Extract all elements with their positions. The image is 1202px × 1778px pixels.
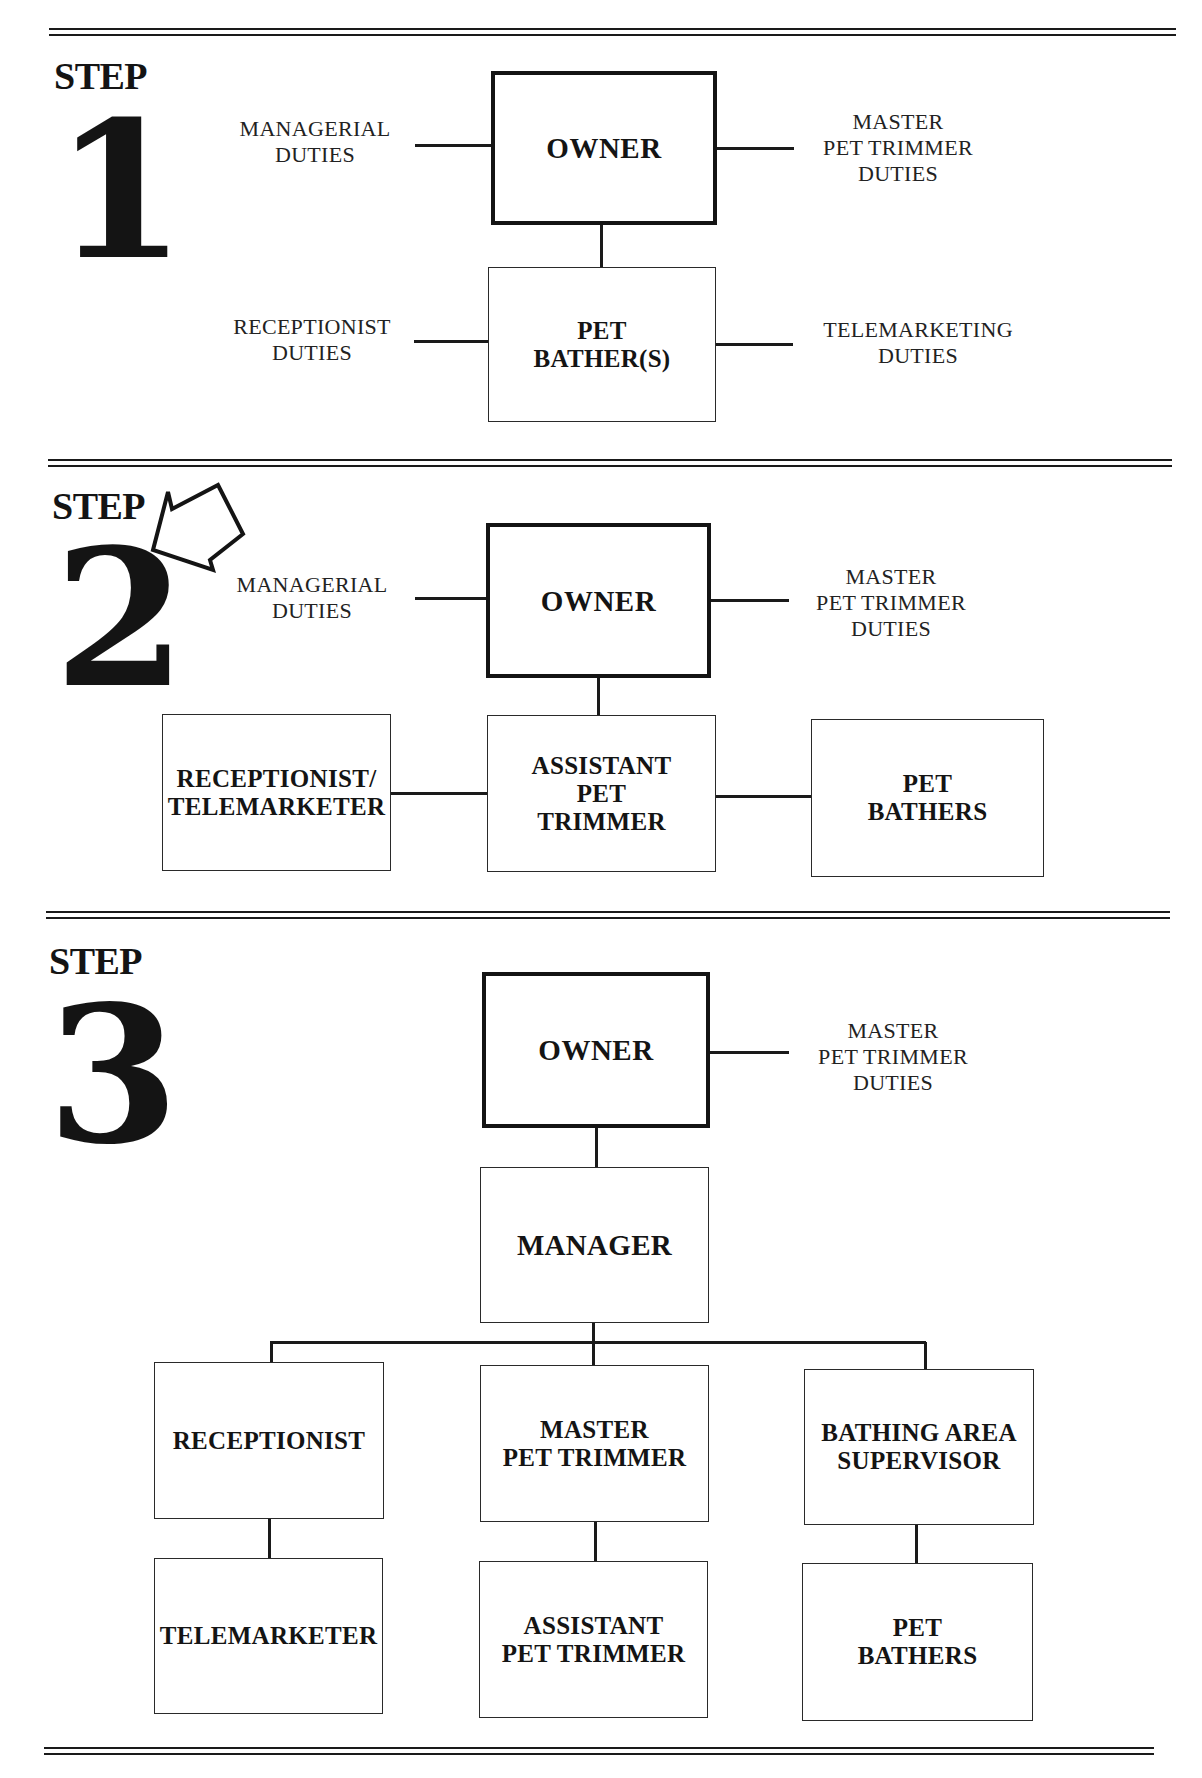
section-divider-3b	[46, 917, 1170, 919]
step-1-connector-managerial	[415, 144, 491, 147]
step-3-connector-owner-manager	[595, 1128, 598, 1168]
section-divider-top-a	[49, 28, 1176, 30]
step-1-number: 1	[54, 96, 186, 286]
step-2-pet-bathers-box: PET BATHERS	[811, 719, 1044, 877]
section-divider-top-b	[49, 34, 1176, 36]
step-2-connector-owner-assistant	[597, 678, 600, 715]
step-3-connector-supervisor-bathers	[915, 1525, 918, 1564]
step-1-connector-owner-bather	[600, 225, 603, 268]
step-3-assistant-trimmer-label: ASSISTANT PET TRIMMER	[502, 1612, 686, 1668]
section-divider-2a	[48, 459, 1172, 461]
step-1-pet-bather-label: PET BATHER(S)	[534, 317, 671, 373]
step-3-pet-bathers-label: PET BATHERS	[858, 1614, 978, 1670]
step-3-assistant-trimmer-box: ASSISTANT PET TRIMMER	[479, 1561, 708, 1718]
step-3-bathing-supervisor-label: BATHING AREA SUPERVISOR	[821, 1419, 1017, 1475]
step-2-number: 2	[54, 524, 186, 714]
step-3-receptionist-label: RECEPTIONIST	[173, 1427, 366, 1455]
step-1-owner-box: OWNER	[491, 71, 717, 225]
step-1-managerial-duties: MANAGERIAL DUTIES	[240, 116, 391, 168]
step-3-connector-receptionist-telemarketer	[268, 1519, 271, 1559]
step-2-receptionist-telemarketer-box: RECEPTIONIST/ TELEMARKETER	[162, 714, 391, 871]
step-1-telemarketing-duties: TELEMARKETING DUTIES	[823, 317, 1013, 369]
section-divider-bottom-b	[44, 1753, 1154, 1755]
step-2-assistant-trimmer-label: ASSISTANT PET TRIMMER	[532, 752, 672, 836]
step-3-connector-bathing	[924, 1342, 927, 1369]
section-divider-2b	[48, 465, 1172, 467]
step-2-assistant-trimmer-box: ASSISTANT PET TRIMMER	[487, 715, 716, 872]
step-3-owner-label: OWNER	[538, 1036, 653, 1064]
step-2-connector-master	[711, 599, 789, 602]
step-3-telemarketer-box: TELEMARKETER	[154, 1558, 383, 1714]
step-2-managerial-duties: MANAGERIAL DUTIES	[237, 572, 388, 624]
step-3-master-trimmer-label: MASTER PET TRIMMER	[503, 1416, 687, 1472]
step-3-number: 3	[47, 980, 179, 1170]
step-2-owner-box: OWNER	[486, 523, 711, 678]
step-1-connector-telemarketing	[716, 343, 793, 346]
step-1-pet-bather-box: PET BATHER(S)	[488, 267, 716, 422]
step-3-receptionist-box: RECEPTIONIST	[154, 1362, 384, 1519]
step-3-manager-box: MANAGER	[480, 1167, 709, 1323]
step-3-owner-box: OWNER	[482, 972, 710, 1128]
step-3-manager-label: MANAGER	[517, 1231, 672, 1259]
step-3-connector-master-assistant	[594, 1522, 597, 1562]
step-1-receptionist-duties: RECEPTIONIST DUTIES	[233, 314, 391, 366]
step-2-connector-right	[716, 795, 812, 798]
section-divider-3a	[46, 911, 1170, 913]
step-2-connector-left	[391, 792, 487, 795]
step-1-master-trimmer-duties: MASTER PET TRIMMER DUTIES	[823, 109, 973, 187]
step-1-connector-receptionist	[414, 340, 488, 343]
step-2-owner-label: OWNER	[541, 587, 656, 615]
step-3-pet-bathers-box: PET BATHERS	[802, 1563, 1033, 1721]
step-3-master-trimmer-duties: MASTER PET TRIMMER DUTIES	[818, 1018, 968, 1096]
step-3-bathing-supervisor-box: BATHING AREA SUPERVISOR	[804, 1369, 1034, 1525]
step-2-master-trimmer-duties: MASTER PET TRIMMER DUTIES	[816, 564, 966, 642]
section-divider-bottom-a	[44, 1747, 1154, 1749]
step-3-telemarketer-label: TELEMARKETER	[160, 1622, 378, 1650]
step-2-pet-bathers-label: PET BATHERS	[868, 770, 988, 826]
step-2-receptionist-telemarketer-label: RECEPTIONIST/ TELEMARKETER	[168, 765, 386, 821]
step-3-connector-receptionist	[270, 1341, 273, 1363]
step-3-connector-manager-branch	[592, 1323, 595, 1365]
step-1-connector-master	[717, 147, 794, 150]
step-2-connector-managerial	[415, 597, 487, 600]
step-3-branch-line	[270, 1341, 926, 1344]
step-3-master-trimmer-box: MASTER PET TRIMMER	[480, 1365, 709, 1522]
step-1-owner-label: OWNER	[546, 134, 661, 162]
step-3-connector-master	[710, 1051, 789, 1054]
